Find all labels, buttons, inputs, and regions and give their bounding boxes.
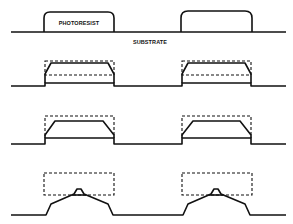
- resist-profile-right: [182, 121, 251, 138]
- original-profile-right: [182, 116, 251, 136]
- original-profile-right: [182, 173, 252, 195]
- diagram-canvas: PHOTORESIST SUBSTRATE: [0, 0, 293, 224]
- substrate-profile: [11, 138, 286, 144]
- stage-2: [11, 61, 286, 86]
- photoresist-label: PHOTORESIST: [59, 20, 100, 26]
- resist-profile-left: [45, 63, 114, 83]
- original-profile-left: [44, 173, 114, 195]
- eroded-profile: [11, 189, 286, 215]
- original-profile-left: [45, 116, 114, 136]
- stage-1: PHOTORESIST SUBSTRATE: [11, 11, 286, 45]
- photoresist-block-right: [181, 11, 252, 32]
- substrate-label: SUBSTRATE: [133, 39, 167, 45]
- resist-profile-right: [182, 63, 251, 83]
- stage-4: [11, 173, 286, 215]
- substrate-profile: [11, 83, 286, 86]
- stage-3: [11, 116, 286, 144]
- resist-profile-left: [45, 121, 114, 138]
